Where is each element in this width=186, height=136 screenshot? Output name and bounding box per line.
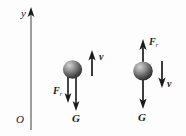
diagram-vector-layer: [0, 0, 186, 136]
right-gravity-force-label: G: [138, 112, 146, 123]
left-gravity-force-label: G: [72, 113, 80, 124]
left-velocity-vector: [88, 50, 95, 76]
left-case-group: [63, 50, 96, 111]
origin-label: O: [16, 114, 24, 125]
y-axis-line: [28, 7, 35, 130]
right-gravity-force-vector: [139, 76, 146, 109]
right-velocity-vector: [158, 61, 165, 88]
right-velocity-label: v: [167, 79, 171, 89]
y-axis-label: y: [21, 8, 26, 19]
right-resistance-force-label: Fr: [149, 37, 158, 47]
left-resistance-force-label: Fr: [53, 86, 62, 96]
right-case-group: [133, 39, 165, 109]
right-ball: [133, 62, 153, 81]
left-gravity-force-vector: [73, 74, 80, 111]
left-velocity-label: v: [99, 52, 103, 62]
physics-force-diagram: y O Fr G v Fr G v: [0, 0, 186, 136]
left-ball: [63, 60, 82, 78]
